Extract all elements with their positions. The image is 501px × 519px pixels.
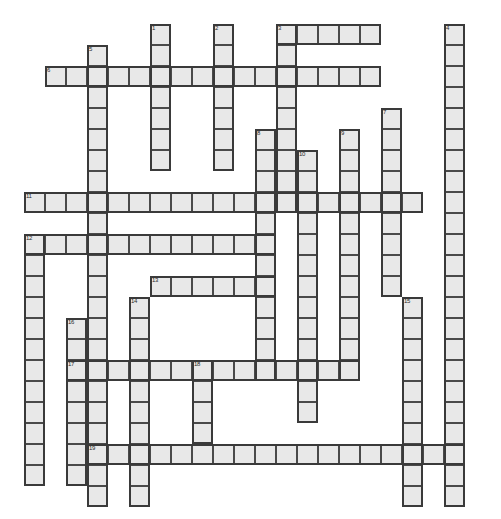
word-outline-9-down (339, 129, 360, 381)
word-outline-12-down (24, 234, 45, 486)
word-outline-12-across (24, 234, 276, 255)
word-outline-13-across (150, 276, 276, 297)
word-outline-16-down (66, 318, 87, 486)
word-outline-10-down (297, 150, 318, 423)
word-outline-18-down (192, 360, 213, 444)
crossword-puzzle: 12345196789101112131415161718 (0, 0, 501, 519)
word-outline-1-down (150, 24, 171, 171)
word-outline-4-down (444, 24, 465, 507)
word-outline-5-down (87, 45, 108, 507)
word-outline-7-down (381, 108, 402, 297)
word-outline-8-down (255, 129, 276, 381)
word-outline-11-across (24, 192, 423, 213)
crossword-word-outlines (0, 0, 501, 519)
word-outline-14-down (129, 297, 150, 507)
word-outline-15-down (402, 297, 423, 507)
word-outline-3-down (276, 24, 297, 213)
word-outline-3-across (276, 24, 381, 45)
word-outline-2-down (213, 24, 234, 171)
word-outline-17-across (66, 360, 360, 381)
word-outline-19-across (87, 444, 465, 465)
word-outline-6-across (45, 66, 381, 87)
